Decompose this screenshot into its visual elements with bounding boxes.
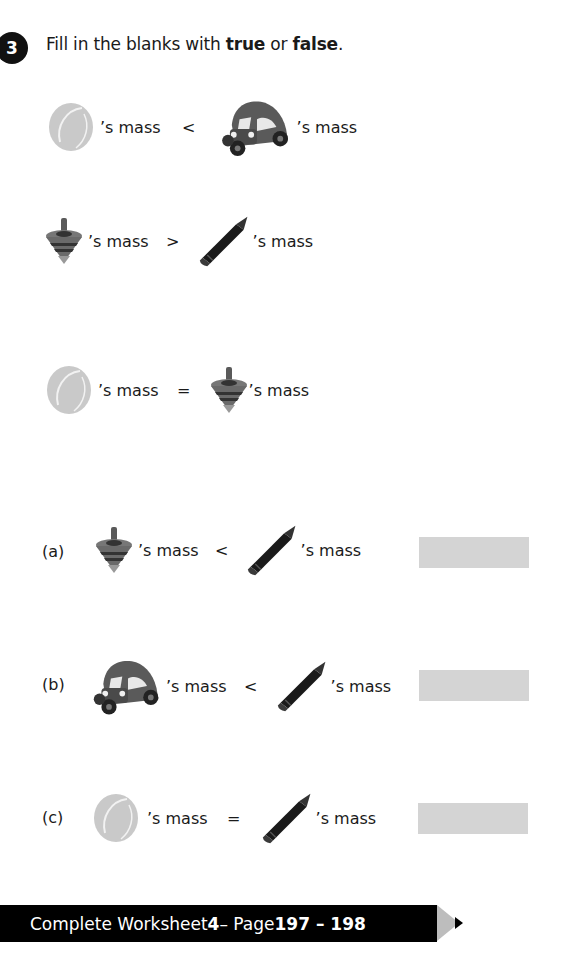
worksheet-reference-banner: Complete Worksheet 4 – Page 197 – 198 xyxy=(0,905,437,942)
right-text: ’s mass xyxy=(331,677,392,696)
word-true: true xyxy=(226,34,265,54)
answer-box-a[interactable] xyxy=(419,537,529,568)
answer-box-c[interactable] xyxy=(418,803,528,834)
left-text: ’s mass xyxy=(138,541,199,560)
greater-than-symbol: > xyxy=(149,232,197,251)
question-number-badge: 3 xyxy=(0,32,28,64)
word-false: false xyxy=(293,34,338,54)
fact-row-2: ’s mass > ’s mass xyxy=(44,213,313,269)
spinning-top-icon xyxy=(94,524,134,576)
instruction-prefix: Fill in the blanks with xyxy=(46,34,226,54)
pencil-point-icon xyxy=(455,917,463,929)
spinning-top-icon xyxy=(209,364,249,416)
right-text: ’s mass xyxy=(297,118,358,137)
left-text: ’s mass xyxy=(98,381,159,400)
instruction-suffix: . xyxy=(338,34,343,54)
part-b-label: (b) xyxy=(42,675,65,694)
right-text: ’s mass xyxy=(253,232,314,251)
left-text: ’s mass xyxy=(100,118,161,137)
left-text: ’s mass xyxy=(166,677,227,696)
right-text: ’s mass xyxy=(316,809,377,828)
left-text: ’s mass xyxy=(88,232,149,251)
worksheet-number: 4 xyxy=(208,914,220,934)
spinning-top-icon xyxy=(44,215,84,267)
toy-car-icon xyxy=(90,655,166,717)
equals-symbol: = xyxy=(208,809,260,828)
instruction-text: Fill in the blanks with true or false. xyxy=(46,34,343,54)
answer-box-b[interactable] xyxy=(419,670,529,701)
crayon-icon xyxy=(260,790,316,846)
instruction-mid: or xyxy=(265,34,292,54)
fact-row-1: ’s mass < ’s mass xyxy=(46,98,357,156)
less-than-symbol: < xyxy=(227,677,275,696)
part-a-label: (a) xyxy=(42,542,64,561)
fact-row-3: ’s mass = ’s mass xyxy=(44,362,309,418)
crayon-icon xyxy=(245,522,301,578)
tennis-ball-icon xyxy=(46,100,96,154)
crayon-icon xyxy=(197,213,253,269)
tennis-ball-icon xyxy=(91,791,141,845)
less-than-symbol: < xyxy=(161,118,217,137)
equals-symbol: = xyxy=(159,381,209,400)
left-text: ’s mass xyxy=(147,809,208,828)
part-a-row: ’s mass < ’s mass xyxy=(94,522,361,578)
part-c-row: ’s mass = ’s mass xyxy=(91,790,376,846)
less-than-symbol: < xyxy=(199,541,245,560)
page-range: 197 – 198 xyxy=(275,914,366,934)
tennis-ball-icon xyxy=(44,363,94,417)
part-c-label: (c) xyxy=(42,808,63,827)
crayon-icon xyxy=(275,658,331,714)
footer-prefix: Complete Worksheet xyxy=(30,914,208,934)
right-text: ’s mass xyxy=(249,381,310,400)
footer-middle: – Page xyxy=(219,914,274,934)
part-b-row: ’s mass < ’s mass xyxy=(90,654,391,718)
toy-car-icon xyxy=(217,96,297,158)
right-text: ’s mass xyxy=(301,541,362,560)
